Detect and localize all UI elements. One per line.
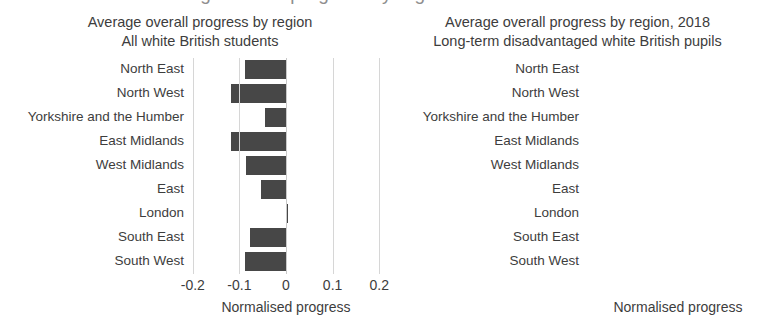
bar-row [190, 60, 385, 79]
bar-row [190, 108, 385, 127]
category-label: North West [117, 85, 184, 101]
category-label: North East [515, 61, 579, 77]
category-axis-left: North EastNorth WestYorkshire and the Hu… [0, 58, 184, 274]
gridline [239, 58, 240, 274]
bar-row [585, 84, 760, 103]
category-label: South West [114, 253, 184, 269]
chart-title-line1: Average overall progress by region [88, 14, 313, 30]
bar-row [585, 132, 760, 151]
chart-title-left: Average overall progress by region All w… [0, 13, 400, 51]
bar [261, 180, 286, 199]
bar-row [585, 228, 760, 247]
category-label: London [139, 205, 184, 221]
x-axis-title-left: Normalised progress [221, 299, 350, 315]
bar [265, 108, 286, 127]
x-tick-label: 0 [282, 277, 290, 293]
category-label: East [157, 181, 184, 197]
bar-row [585, 252, 760, 271]
x-tick-label: 0.1 [323, 277, 342, 293]
x-tick-label: -0.2 [181, 277, 205, 293]
category-label: Yorkshire and the Humber [423, 109, 579, 125]
bar-row [190, 228, 385, 247]
category-label: East Midlands [99, 133, 184, 149]
category-label: South West [509, 253, 579, 269]
bar-row [585, 156, 760, 175]
bar-row [190, 84, 385, 103]
bar [245, 252, 286, 271]
x-tick-label: 0.2 [369, 277, 388, 293]
x-axis-title-right: Normalised progress [613, 299, 742, 315]
gridline [379, 58, 380, 274]
bar-row [190, 252, 385, 271]
category-label: East [552, 181, 579, 197]
category-label: London [534, 205, 579, 221]
category-label: South East [513, 229, 579, 245]
bar-row [190, 132, 385, 151]
bar-row [190, 156, 385, 175]
gridline [286, 58, 287, 274]
bar-row [585, 108, 760, 127]
bar-row [190, 204, 385, 223]
category-label: North West [512, 85, 579, 101]
category-label: South East [118, 229, 184, 245]
bar [250, 228, 286, 247]
chart-title-line1: Average overall progress by region, 2018 [445, 14, 710, 30]
x-tick-label: -0.1 [227, 277, 251, 293]
bar-row [585, 180, 760, 199]
bar-row [190, 180, 385, 199]
bar [246, 156, 286, 175]
bar-series-right [585, 58, 760, 274]
chart-panel-left: Average overall progress by region All w… [0, 0, 400, 327]
bar-row [585, 60, 760, 79]
chart-title-line2: Long-term disadvantaged white British pu… [390, 32, 765, 51]
chart-title-right: Average overall progress by region, 2018… [390, 13, 765, 51]
bar-row [585, 204, 760, 223]
category-label: West Midlands [96, 157, 184, 173]
category-label: East Midlands [494, 133, 579, 149]
bar [245, 60, 286, 79]
chart-panel-right: Average overall progress by region, 2018… [390, 0, 765, 327]
category-axis-right: North EastNorth WestYorkshire and the Hu… [390, 58, 579, 274]
figure-root: Average overall progress by region Avera… [0, 0, 765, 327]
plot-area-right [585, 58, 760, 274]
gridline [333, 58, 334, 274]
chart-title-line2: All white British students [0, 32, 400, 51]
category-label: West Midlands [491, 157, 579, 173]
bar-series-left [190, 58, 385, 274]
plot-area-left [190, 58, 385, 274]
gridline [193, 58, 194, 274]
category-label: North East [120, 61, 184, 77]
category-label: Yorkshire and the Humber [28, 109, 184, 125]
